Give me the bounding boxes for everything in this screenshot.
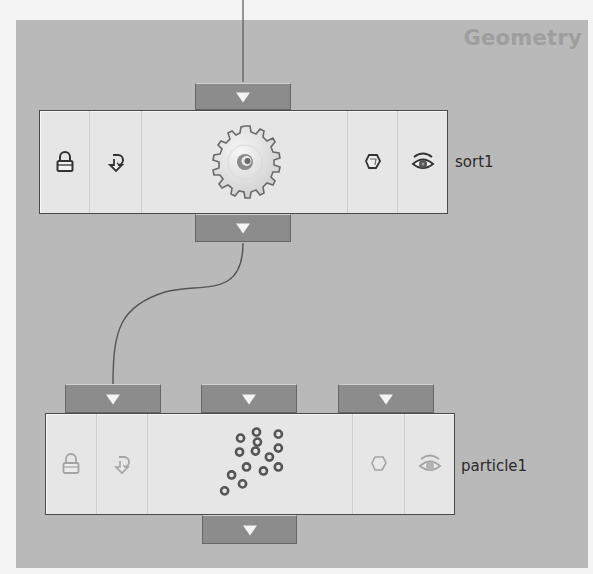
display-eye-icon xyxy=(417,453,443,475)
particle1-input-connector-2[interactable] xyxy=(338,384,434,413)
sort1-output-connector[interactable] xyxy=(195,214,291,242)
display-eye-icon xyxy=(410,151,436,173)
bypass-flag-button[interactable] xyxy=(97,414,148,514)
lock-flag-button[interactable] xyxy=(46,414,97,514)
lock-icon xyxy=(55,151,75,173)
template-flag-button[interactable] xyxy=(353,414,405,514)
sort1-input-connector[interactable] xyxy=(195,83,291,110)
bypass-flag-button[interactable] xyxy=(90,111,142,213)
node-name-sort1[interactable]: sort1 xyxy=(455,153,494,171)
context-label: Geometry xyxy=(463,26,582,50)
gear-icon xyxy=(202,122,288,202)
bypass-icon xyxy=(105,151,127,173)
input-arrow-icon xyxy=(236,92,250,102)
particle1-output-connector[interactable] xyxy=(202,515,297,544)
particle1-input-connector-0[interactable] xyxy=(65,384,161,413)
node-name-particle1[interactable]: particle1 xyxy=(461,457,527,475)
output-arrow-icon xyxy=(243,525,257,535)
input-arrow-icon xyxy=(242,394,256,404)
input-arrow-icon xyxy=(379,394,393,404)
lock-flag-button[interactable] xyxy=(40,111,90,213)
output-arrow-icon xyxy=(236,224,250,234)
display-flag-button[interactable] xyxy=(398,111,448,213)
input-arrow-icon xyxy=(106,394,120,404)
template-icon xyxy=(364,153,382,171)
particles-icon xyxy=(148,414,352,514)
template-icon xyxy=(370,455,388,473)
lock-icon xyxy=(61,453,81,475)
node-type-area[interactable] xyxy=(142,111,348,213)
bypass-icon xyxy=(111,453,133,475)
node-sort1[interactable] xyxy=(39,110,448,214)
node-particle1[interactable] xyxy=(45,413,455,515)
template-flag-button[interactable] xyxy=(348,111,398,213)
display-flag-button[interactable] xyxy=(405,414,455,514)
particle1-input-connector-1[interactable] xyxy=(201,384,297,413)
node-type-area[interactable] xyxy=(148,414,353,514)
